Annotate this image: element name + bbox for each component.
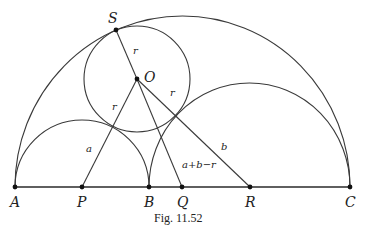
semicircle-bc xyxy=(149,83,350,187)
label-os-r: r xyxy=(133,45,139,56)
label-p: P xyxy=(76,194,87,210)
label-c: C xyxy=(345,194,356,210)
point-r xyxy=(248,185,253,190)
point-p xyxy=(80,185,85,190)
point-c xyxy=(348,185,353,190)
label-b: B xyxy=(143,194,154,210)
label-o: O xyxy=(144,69,156,85)
segment-op xyxy=(82,79,137,187)
label-s: S xyxy=(108,10,118,26)
geometry-diagram: A P B Q R C S O r r r a b a+b−r Fig. 11.… xyxy=(0,0,365,233)
label-r: R xyxy=(244,194,256,210)
label-a: A xyxy=(8,194,20,210)
point-a xyxy=(13,185,18,190)
segment-or xyxy=(137,79,250,187)
semicircle-ab xyxy=(15,120,149,187)
label-or-r: r xyxy=(170,87,176,98)
label-q: Q xyxy=(177,194,189,210)
figure-11-52: A P B Q R C S O r r r a b a+b−r Fig. 11.… xyxy=(0,0,365,233)
label-op-r: r xyxy=(112,101,118,112)
label-abr-seg: a+b−r xyxy=(182,159,217,170)
segment-oq xyxy=(137,79,182,187)
point-o xyxy=(135,77,140,82)
point-s xyxy=(114,28,119,33)
label-b-seg: b xyxy=(221,141,227,152)
point-q xyxy=(180,185,185,190)
point-b xyxy=(147,185,152,190)
figure-caption: Fig. 11.52 xyxy=(154,211,203,225)
label-a-seg: a xyxy=(86,143,92,154)
